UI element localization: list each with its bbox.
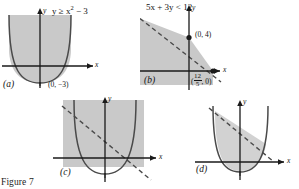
y-axis-label-d: y: [243, 98, 246, 106]
inequality-label-b: 5x + 3y < 12: [146, 3, 192, 12]
x-axis-arrow-c: [150, 155, 156, 161]
x-axis-label-d: x: [287, 157, 290, 165]
panel-id-a: (a): [3, 80, 14, 90]
panel-b-graph: [140, 0, 299, 95]
y-axis-arrow-a: [37, 8, 43, 14]
point-label-b-1: (125, 0): [191, 73, 212, 88]
point-label-b-0: (0, 4): [195, 31, 211, 39]
y-axis-label-a: y: [43, 7, 46, 15]
x-axis-arrow-a: [87, 63, 93, 69]
x-axis-label-a: x: [95, 61, 98, 69]
y-axis-label-c: y: [108, 95, 111, 103]
panel-id-b: (b): [144, 76, 155, 86]
point-label-a-0: (0, −3): [48, 81, 68, 89]
panel-id-d: (d): [196, 165, 207, 175]
figure-caption: Figure 7: [1, 177, 34, 187]
point-b-1-suffix: , 0): [202, 77, 212, 86]
inequality-exponent-a: 2: [70, 4, 73, 11]
inequality-lhs-a: y ≥ x: [52, 6, 70, 16]
y-intercept-dot-b: [186, 35, 191, 40]
panel-b: x y 5x + 3y < 12 (0, 4) (125, 0) (b): [140, 0, 299, 95]
y-axis-arrow-d: [237, 100, 243, 106]
point-b-1-fraction: 125: [194, 73, 202, 88]
panel-d-graph: [192, 92, 299, 189]
y-axis-label-b: y: [192, 4, 195, 12]
inequality-rhs-a: − 3: [76, 6, 88, 16]
x-axis-arrow-d: [278, 159, 284, 165]
inequality-label-a: y ≥ x2 − 3: [52, 5, 88, 16]
x-axis-label-c: x: [159, 153, 162, 161]
panel-id-c: (c): [60, 168, 71, 178]
point-b-1-denominator: 5: [194, 81, 202, 88]
panel-c: x y (c): [48, 92, 178, 189]
panel-d: x y (d): [192, 92, 299, 189]
figure-container: x y y ≥ x2 − 3 (0, −3) (a): [0, 0, 299, 189]
panel-a: x y y ≥ x2 − 3 (0, −3) (a): [0, 0, 150, 95]
x-axis-label-b: x: [223, 66, 226, 74]
